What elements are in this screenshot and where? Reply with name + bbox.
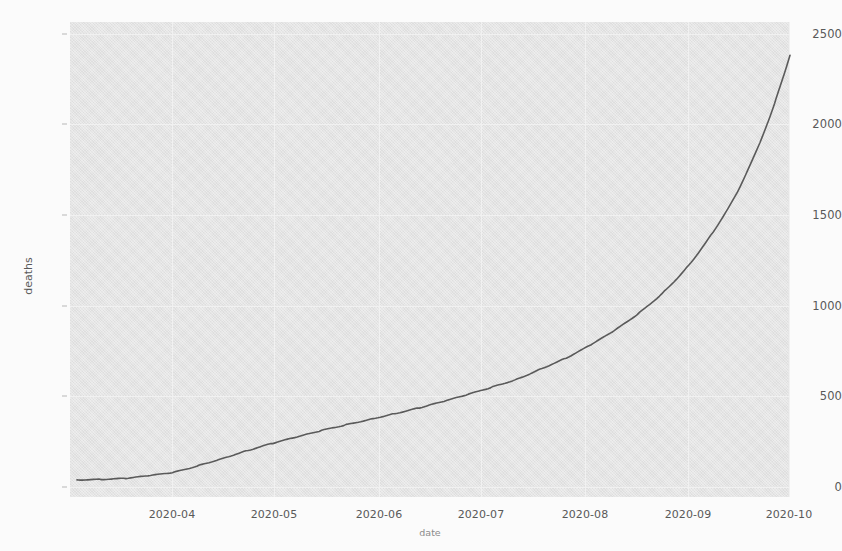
x-tick-label: 2020-06 bbox=[334, 508, 424, 521]
y-tick-label: 0 bbox=[784, 480, 842, 494]
x-tick-label: 2020-09 bbox=[643, 508, 733, 521]
y-tick-mark bbox=[62, 487, 67, 488]
y-tick-mark bbox=[62, 215, 67, 216]
x-tick-label: 2020-05 bbox=[229, 508, 319, 521]
y-tick-mark bbox=[62, 124, 67, 125]
chart-page: deaths 2500 2000 1500 1000 500 0 2020-04… bbox=[0, 0, 842, 551]
x-tick-label: 2020-08 bbox=[540, 508, 630, 521]
y-tick-label: 1000 bbox=[784, 299, 842, 313]
y-tick-mark bbox=[62, 34, 67, 35]
y-tick-mark bbox=[62, 396, 67, 397]
plot-area bbox=[70, 22, 790, 497]
x-tick-label: 2020-07 bbox=[436, 508, 526, 521]
series-polyline bbox=[77, 55, 790, 480]
y-tick-label: 2000 bbox=[784, 117, 842, 131]
y-tick-mark bbox=[62, 306, 67, 307]
deaths-line-series bbox=[70, 22, 790, 497]
x-tick-label: 2020-04 bbox=[127, 508, 217, 521]
y-tick-label: 2500 bbox=[784, 27, 842, 41]
y-axis-label: deaths bbox=[22, 257, 35, 295]
x-axis-label: date bbox=[419, 527, 440, 538]
y-tick-label: 500 bbox=[784, 389, 842, 403]
y-tick-label: 1500 bbox=[784, 208, 842, 222]
x-tick-label: 2020-10 bbox=[744, 508, 834, 521]
